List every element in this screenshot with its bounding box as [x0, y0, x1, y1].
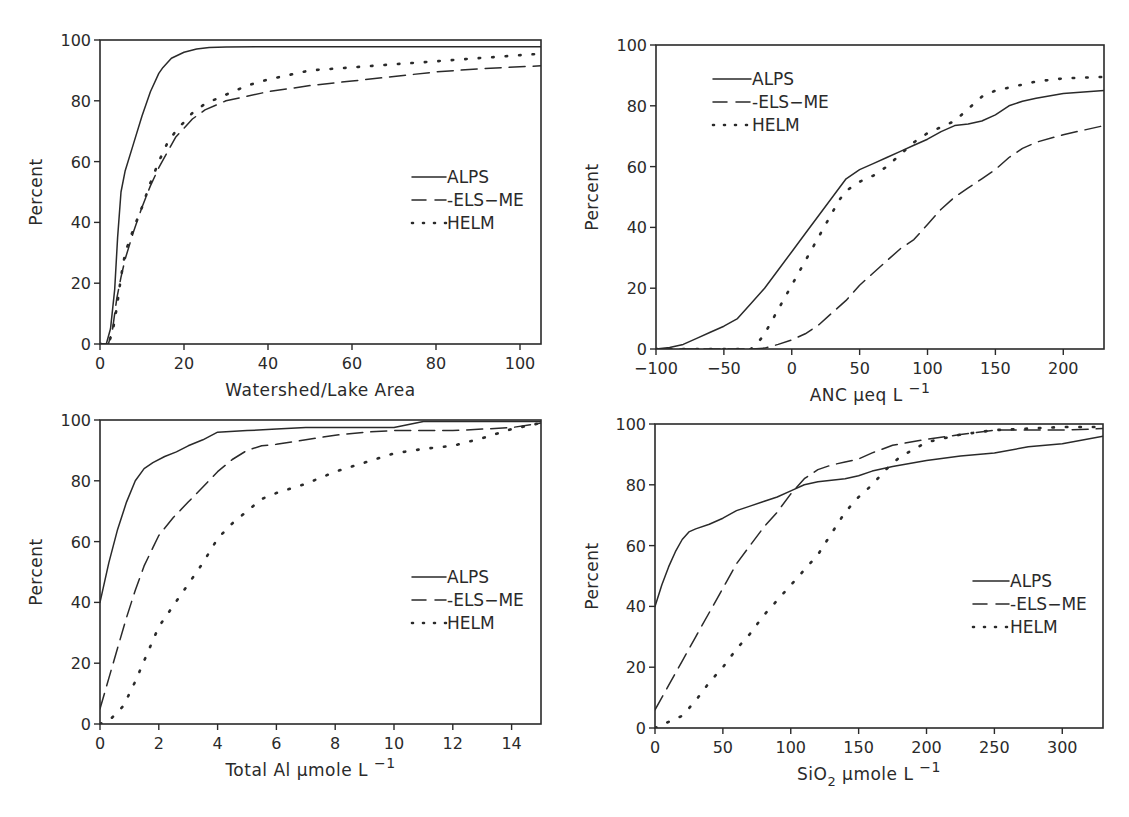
legend: ALPS-ELS−MEHELM — [412, 567, 524, 633]
y-tick-label: 100 — [615, 415, 646, 434]
x-tick-label: 0 — [95, 354, 105, 373]
x-tick-label: 300 — [1047, 738, 1078, 757]
legend-label-helm: HELM — [447, 613, 495, 633]
y-tick-label: 20 — [626, 658, 646, 677]
y-tick-label: 0 — [636, 719, 646, 738]
x-axis-label: Total Al µmole L −1 — [224, 755, 395, 780]
x-tick-label: 100 — [505, 354, 536, 373]
legend: ALPS-ELS−MEHELM — [973, 571, 1087, 637]
y-tick-label: 80 — [626, 476, 646, 495]
legend-label-helm: HELM — [1010, 617, 1058, 637]
y-tick-label: 60 — [627, 158, 647, 177]
x-tick-label: 0 — [95, 734, 105, 753]
x-tick-label: 250 — [979, 738, 1010, 757]
legend-label-els-me: -ELS−ME — [447, 190, 524, 210]
legend-label-els-me: -ELS−ME — [1010, 594, 1087, 614]
legend: ALPS-ELS−MEHELM — [412, 167, 524, 233]
y-tick-label: 20 — [71, 654, 91, 673]
y-tick-label: 80 — [627, 97, 647, 116]
legend-label-alps: ALPS — [447, 567, 489, 587]
legend-label-els-me: -ELS−ME — [752, 92, 829, 112]
y-tick-label: 40 — [71, 593, 91, 612]
y-tick-label: 0 — [637, 340, 647, 359]
y-tick-label: 40 — [626, 597, 646, 616]
x-tick-label: −50 — [707, 359, 741, 378]
x-tick-label: 50 — [849, 359, 869, 378]
x-axis-label: ANC µeq L −1 — [810, 380, 931, 405]
y-tick-label: 40 — [627, 218, 647, 237]
y-axis-label: Percent — [582, 542, 602, 609]
x-tick-label: −100 — [634, 359, 678, 378]
x-tick-label: 100 — [912, 359, 943, 378]
legend: ALPS-ELS−MEHELM — [713, 69, 829, 135]
y-axis-label: Percent — [26, 538, 46, 605]
x-tick-label: 8 — [330, 734, 340, 753]
x-tick-label: 40 — [258, 354, 278, 373]
y-tick-label: 20 — [71, 274, 91, 293]
y-axis-label: Percent — [26, 158, 46, 225]
series-line-els-me — [655, 429, 1103, 710]
plot-frame — [656, 45, 1104, 349]
legend-label-helm: HELM — [447, 213, 495, 233]
x-tick-label: 150 — [843, 738, 874, 757]
y-tick-label: 100 — [60, 411, 91, 430]
legend-label-alps: ALPS — [447, 167, 489, 187]
y-tick-label: 100 — [60, 31, 91, 50]
y-tick-label: 60 — [71, 153, 91, 172]
y-tick-label: 20 — [627, 279, 647, 298]
x-axis-label: SiO2 µmole L −1 — [797, 759, 941, 789]
series-line-els-me — [656, 126, 1104, 349]
x-axis-label: Watershed/Lake Area — [225, 380, 415, 400]
legend-label-alps: ALPS — [1010, 571, 1052, 591]
x-tick-label: 200 — [911, 738, 942, 757]
x-tick-label: 50 — [713, 738, 733, 757]
x-tick-label: 80 — [426, 354, 446, 373]
legend-label-helm: HELM — [752, 115, 800, 135]
x-tick-label: 100 — [775, 738, 806, 757]
series-line-alps — [656, 91, 1104, 349]
x-tick-label: 6 — [271, 734, 281, 753]
y-tick-label: 100 — [616, 36, 647, 55]
x-tick-label: 2 — [154, 734, 164, 753]
x-tick-label: 0 — [650, 738, 660, 757]
x-tick-label: 12 — [443, 734, 463, 753]
panel-silica: 020406080100050100150200250300PercentSiO… — [582, 415, 1103, 789]
y-tick-label: 60 — [626, 537, 646, 556]
x-tick-label: 200 — [1048, 359, 1079, 378]
x-tick-label: 0 — [787, 359, 797, 378]
x-tick-label: 10 — [384, 734, 404, 753]
x-tick-label: 150 — [980, 359, 1011, 378]
y-tick-label: 60 — [71, 533, 91, 552]
series-line-helm — [656, 77, 1104, 349]
y-tick-label: 0 — [81, 715, 91, 734]
y-axis-label: Percent — [582, 163, 602, 230]
y-tick-label: 40 — [71, 213, 91, 232]
x-tick-label: 60 — [342, 354, 362, 373]
panel-aluminum: 02040608010002468101214PercentTotal Al µ… — [26, 411, 541, 780]
x-tick-label: 4 — [213, 734, 223, 753]
y-tick-label: 80 — [71, 92, 91, 111]
legend-label-els-me: -ELS−ME — [447, 590, 524, 610]
series-line-els-me — [100, 423, 541, 709]
y-tick-label: 80 — [71, 472, 91, 491]
panel-anc: 020406080100−100−50050100150200PercentAN… — [582, 36, 1104, 405]
panel-watershed: 020406080100020406080100PercentWatershed… — [26, 31, 541, 400]
y-tick-label: 0 — [81, 335, 91, 354]
legend-label-alps: ALPS — [752, 69, 794, 89]
x-tick-label: 14 — [501, 734, 521, 753]
x-tick-label: 20 — [174, 354, 194, 373]
figure: 020406080100020406080100PercentWatershed… — [0, 0, 1129, 817]
